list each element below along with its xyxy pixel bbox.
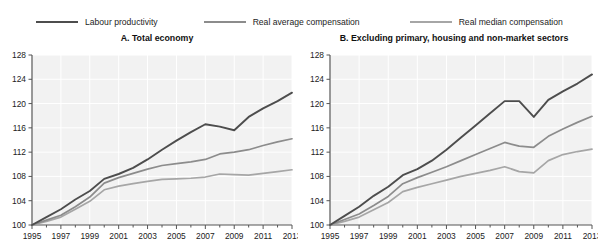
svg-text:1999: 1999 xyxy=(379,231,398,241)
svg-text:108: 108 xyxy=(310,171,324,181)
svg-text:100: 100 xyxy=(310,220,324,230)
svg-text:1995: 1995 xyxy=(321,231,340,241)
svg-text:124: 124 xyxy=(12,74,26,84)
legend-label-labour-productivity: Labour productivity xyxy=(85,18,158,27)
chart-legend: Labour productivity Real average compens… xyxy=(0,13,600,31)
svg-text:108: 108 xyxy=(12,171,26,181)
svg-text:2007: 2007 xyxy=(495,231,514,241)
svg-text:2003: 2003 xyxy=(437,231,456,241)
svg-text:112: 112 xyxy=(13,147,27,157)
figure-root: Labour productivity Real average compens… xyxy=(0,0,600,250)
panel-a-svg: 1001041081121161201241281995199719992001… xyxy=(2,49,298,247)
svg-text:104: 104 xyxy=(310,196,324,206)
svg-text:116: 116 xyxy=(311,123,325,133)
svg-text:104: 104 xyxy=(12,196,26,206)
svg-text:1997: 1997 xyxy=(52,231,71,241)
svg-text:2011: 2011 xyxy=(254,231,272,241)
svg-text:116: 116 xyxy=(13,123,27,133)
svg-text:120: 120 xyxy=(310,99,324,109)
svg-text:2005: 2005 xyxy=(466,231,485,241)
panel-a-total-economy: A. Total economy 10010410811211612012412… xyxy=(2,33,298,247)
svg-text:2013: 2013 xyxy=(283,231,298,241)
svg-text:112: 112 xyxy=(311,147,325,157)
legend-item-labour-productivity: Labour productivity xyxy=(36,18,158,27)
legend-label-real-average-compensation: Real average compensation xyxy=(253,18,360,27)
svg-text:1997: 1997 xyxy=(350,231,369,241)
svg-text:2001: 2001 xyxy=(109,231,128,241)
svg-text:2011: 2011 xyxy=(554,231,572,241)
legend-swatch-real-median-compensation xyxy=(410,21,452,23)
panel-a-title: A. Total economy xyxy=(2,33,298,44)
legend-label-real-median-compensation: Real median compensation xyxy=(459,18,563,27)
svg-text:2003: 2003 xyxy=(138,231,157,241)
legend-swatch-real-average-compensation xyxy=(204,21,246,23)
legend-item-real-median-compensation: Real median compensation xyxy=(410,18,563,27)
svg-text:1999: 1999 xyxy=(80,231,99,241)
svg-text:2009: 2009 xyxy=(225,231,244,241)
svg-text:2005: 2005 xyxy=(167,231,186,241)
svg-text:100: 100 xyxy=(12,220,26,230)
legend-swatch-labour-productivity xyxy=(36,21,78,23)
svg-text:1995: 1995 xyxy=(23,231,42,241)
svg-text:128: 128 xyxy=(310,50,324,60)
panel-b-plot: 1001041081121161201241281995199719992001… xyxy=(300,49,598,247)
panel-a-plot: 1001041081121161201241281995199719992001… xyxy=(2,49,298,247)
svg-text:2013: 2013 xyxy=(583,231,598,241)
svg-text:120: 120 xyxy=(12,99,26,109)
svg-text:2001: 2001 xyxy=(408,231,427,241)
legend-item-real-average-compensation: Real average compensation xyxy=(204,18,360,27)
svg-text:2009: 2009 xyxy=(524,231,543,241)
panel-b-excluding-sectors: B. Excluding primary, housing and non-ma… xyxy=(300,33,598,247)
panel-b-svg: 1001041081121161201241281995199719992001… xyxy=(300,49,598,247)
svg-text:128: 128 xyxy=(12,50,26,60)
panel-b-title: B. Excluding primary, housing and non-ma… xyxy=(300,33,598,44)
svg-text:124: 124 xyxy=(310,74,324,84)
svg-text:2007: 2007 xyxy=(196,231,215,241)
